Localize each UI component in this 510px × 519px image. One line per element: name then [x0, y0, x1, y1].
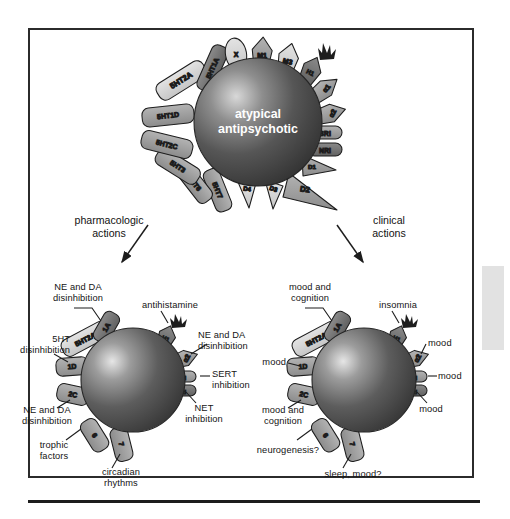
anno-left-net-inhibition: NET inhibition: [176, 403, 232, 425]
anno-right-sleep-mood: sleep, mood?: [322, 469, 384, 480]
anno-left-circadian-rhythms: circadian rhythms: [90, 467, 152, 489]
anno-right-mood-cognition-top: mood and cognition: [272, 282, 348, 304]
anno-left-ne-da-top: NE and DA disinhibition: [38, 282, 118, 304]
anno-left-ne-da-left: NE and DA disinhibition: [6, 405, 88, 427]
svg-text:1D: 1D: [67, 363, 76, 371]
svg-text:D1: D1: [308, 163, 316, 170]
flow-label-pharmacologic: pharmacologic actions: [66, 214, 152, 239]
right-core-sphere: [312, 328, 416, 432]
svg-text:NRI: NRI: [319, 147, 331, 154]
right-molecule: 5HT2A 1A H1 α2: [286, 308, 437, 468]
anno-right-insomnia: insomnia: [372, 300, 424, 311]
receptor-D2[interactable]: D2: [283, 173, 337, 210]
receptor-5HT1D[interactable]: 5HT1D: [141, 103, 195, 127]
svg-text:D2: D2: [300, 184, 312, 194]
flame-icon: [318, 43, 336, 60]
right-flame-icon: [401, 314, 418, 328]
anno-right-mood-sri: mood: [438, 371, 476, 382]
top-core-line1: atypical: [235, 107, 281, 121]
anno-left-ne-da-right: NE and DA disinhibition: [198, 330, 276, 352]
anno-right-mood-cognition-left: mood and cognition: [245, 405, 321, 427]
anno-right-neurogenesis: neurogenesis?: [252, 445, 324, 456]
anno-right-mood-nri: mood: [412, 404, 450, 415]
svg-text:X: X: [234, 51, 239, 58]
anno-left-5ht-disinhibition: 5HT disinhibition: [8, 334, 70, 356]
left-core-sphere: [81, 328, 185, 432]
anno-left-sert-inhibition: SERT inhibition: [212, 369, 260, 391]
top-molecule: 5HT2A 5HT1A X M1: [139, 36, 348, 213]
left-flame-icon: [170, 314, 187, 328]
top-core-line2: antipsychotic: [218, 122, 298, 136]
anno-right-mood-left: mood: [248, 357, 286, 368]
anno-left-antihistamine: antihistamine: [133, 300, 207, 311]
anno-right-mood-alpha2: mood: [428, 338, 466, 349]
flow-label-clinical: clinical actions: [350, 214, 428, 239]
anno-left-trophic-factors: trophic factors: [26, 440, 82, 462]
figure-canvas: 5HT2A 5HT1A X M1: [0, 0, 510, 519]
